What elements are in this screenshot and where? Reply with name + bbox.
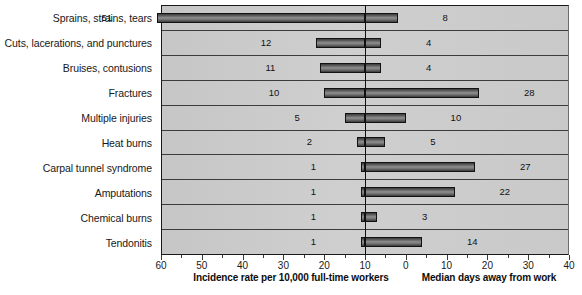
bar-incidence-rate xyxy=(357,137,365,147)
caption-remnant xyxy=(0,287,582,295)
x-axis-tick-label: 20 xyxy=(319,260,330,271)
chart-root: Sprains, strains, tears Cuts, laceration… xyxy=(0,0,582,295)
axis-titles: Incidence rate per 10,000 full-time work… xyxy=(0,272,582,286)
bar-value-label-left: 2 xyxy=(307,138,312,148)
x-axis-minor-tick xyxy=(181,255,182,258)
bar-value-label-left: 1 xyxy=(311,237,316,247)
zero-axis-line xyxy=(365,5,366,255)
bar-median-days xyxy=(365,63,381,73)
x-axis-tick-label: 20 xyxy=(482,260,493,271)
x-axis-tick-label: 40 xyxy=(563,260,574,271)
bar-median-days xyxy=(365,187,455,197)
category-label: Carpal tunnel syndrome xyxy=(0,155,157,180)
category-label: Heat burns xyxy=(0,130,157,155)
bar-value-label-right: 4 xyxy=(426,63,431,73)
bar-value-label-right: 4 xyxy=(426,38,431,48)
category-label: Multiple injuries xyxy=(0,105,157,130)
bar-value-label-left: 11 xyxy=(265,63,275,73)
x-axis-tick-label: 0 xyxy=(403,260,409,271)
category-label: Amputations xyxy=(0,180,157,205)
bar-median-days xyxy=(365,88,479,98)
x-axis-minor-tick xyxy=(426,255,427,258)
bar-incidence-rate xyxy=(320,63,365,73)
x-axis-tick-label: 40 xyxy=(237,260,248,271)
bar-value-label-left: 10 xyxy=(269,88,280,98)
x-axis-minor-tick xyxy=(549,255,550,258)
bar-value-label-right: 5 xyxy=(430,138,435,148)
category-label: Chemical burns xyxy=(0,205,157,230)
x-axis-tick-label: 60 xyxy=(155,260,166,271)
x-axis-tick-label: 50 xyxy=(196,260,207,271)
bar-value-label-right: 14 xyxy=(467,237,478,247)
x-axis-tick-label: 30 xyxy=(523,260,534,271)
bar-value-label-right: 8 xyxy=(442,13,447,23)
category-axis-labels: Sprains, strains, tears Cuts, laceration… xyxy=(0,5,157,255)
bar-median-days xyxy=(365,162,475,172)
bar-value-label-right: 28 xyxy=(524,88,535,98)
bar-value-label-left: 51 xyxy=(102,13,113,23)
bar-value-label-left: 1 xyxy=(311,188,316,198)
bar-incidence-rate xyxy=(345,113,365,123)
x-axis-tick-label: 30 xyxy=(278,260,289,271)
bar-value-label-right: 10 xyxy=(451,113,462,123)
x-axis-title-left: Incidence rate per 10,000 full-time work… xyxy=(193,272,388,283)
category-label: Fractures xyxy=(0,80,157,105)
category-label: Cuts, lacerations, and punctures xyxy=(0,30,157,55)
category-label: Sprains, strains, tears xyxy=(0,5,157,30)
bar-median-days xyxy=(365,113,406,123)
bar-median-days xyxy=(365,212,377,222)
bar-value-label-right: 3 xyxy=(422,212,427,222)
x-axis-title-right: Median days away from work xyxy=(422,272,556,283)
bar-value-label-left: 12 xyxy=(261,38,272,48)
x-axis-tick-label: 10 xyxy=(441,260,452,271)
bar-median-days xyxy=(365,13,398,23)
bar-incidence-rate xyxy=(324,88,365,98)
bar-value-label-right: 27 xyxy=(520,163,531,173)
bar-value-label-left: 5 xyxy=(295,113,300,123)
bar-value-label-left: 1 xyxy=(311,212,316,222)
bar-median-days xyxy=(365,237,422,247)
x-axis-minor-tick xyxy=(345,255,346,258)
bar-value-label-right: 22 xyxy=(500,188,511,198)
bar-value-label-left: 1 xyxy=(311,163,316,173)
x-axis-minor-tick xyxy=(263,255,264,258)
plot-area: 51812411410285102512712213114 xyxy=(161,5,569,255)
x-axis-minor-tick xyxy=(508,255,509,258)
x-axis-minor-tick xyxy=(304,255,305,258)
x-axis-minor-tick xyxy=(222,255,223,258)
category-label: Bruises, contusions xyxy=(0,55,157,80)
x-axis-minor-tick xyxy=(385,255,386,258)
x-axis-minor-tick xyxy=(467,255,468,258)
bar-incidence-rate xyxy=(316,38,365,48)
category-label: Tendonitis xyxy=(0,230,157,255)
bar-median-days xyxy=(365,137,385,147)
bar-incidence-rate xyxy=(157,13,365,23)
x-axis-tick-label: 10 xyxy=(359,260,370,271)
bar-median-days xyxy=(365,38,381,48)
